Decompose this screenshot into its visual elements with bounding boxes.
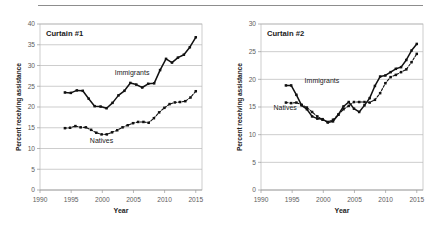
series-annotation-natives-curtain-1: Natives: [90, 137, 113, 144]
svg-text:40: 40: [28, 20, 36, 27]
svg-text:30: 30: [28, 62, 36, 69]
svg-text:2005: 2005: [126, 196, 141, 203]
y-axis-title-curtain-2: Percent receiving assistance: [236, 63, 243, 151]
svg-text:25: 25: [249, 48, 257, 55]
svg-text:1995: 1995: [64, 196, 79, 203]
svg-text:2015: 2015: [188, 196, 203, 203]
svg-text:1990: 1990: [33, 196, 48, 203]
svg-text:5: 5: [252, 159, 256, 166]
svg-text:2000: 2000: [95, 196, 110, 203]
svg-text:10: 10: [28, 145, 36, 152]
x-axis-title-curtain-2: Year: [261, 207, 423, 214]
chart-panel-curtain-1: 0510152025303540199019952000200520102015…: [6, 12, 211, 218]
svg-text:15: 15: [28, 124, 36, 131]
svg-text:25: 25: [28, 83, 36, 90]
svg-text:1995: 1995: [285, 196, 300, 203]
x-axis-title-curtain-1: Year: [40, 207, 202, 214]
chart-svg-curtain-2: 051015202530199019952000200520102015: [227, 12, 432, 218]
svg-text:10: 10: [249, 131, 257, 138]
svg-text:30: 30: [249, 20, 257, 27]
figure-root: 0510152025303540199019952000200520102015…: [0, 0, 441, 225]
svg-text:15: 15: [249, 103, 257, 110]
svg-text:0: 0: [252, 186, 256, 193]
svg-text:2010: 2010: [157, 196, 172, 203]
chart-panel-curtain-2: 051015202530199019952000200520102015 Cur…: [227, 12, 432, 218]
svg-text:35: 35: [28, 41, 36, 48]
svg-text:1990: 1990: [254, 196, 269, 203]
svg-text:2015: 2015: [409, 196, 424, 203]
series-annotation-natives-curtain-2: Natives: [273, 104, 296, 111]
chart-title-curtain-2: Curtain #2: [267, 29, 304, 38]
svg-text:0: 0: [31, 186, 35, 193]
series-annotation-immigrants-curtain-1: Immigrants: [115, 69, 150, 76]
chart-title-curtain-1: Curtain #1: [46, 29, 83, 38]
top-divider-rule: [38, 5, 423, 6]
chart-svg-curtain-1: 0510152025303540199019952000200520102015: [6, 12, 211, 218]
svg-text:2000: 2000: [316, 196, 331, 203]
svg-text:5: 5: [31, 166, 35, 173]
series-annotation-immigrants-curtain-2: Immigrants: [305, 77, 340, 84]
y-axis-title-curtain-1: Percent receiving assistance: [15, 63, 22, 151]
svg-text:2005: 2005: [347, 196, 362, 203]
svg-text:20: 20: [28, 103, 36, 110]
svg-text:2010: 2010: [378, 196, 393, 203]
svg-text:20: 20: [249, 76, 257, 83]
